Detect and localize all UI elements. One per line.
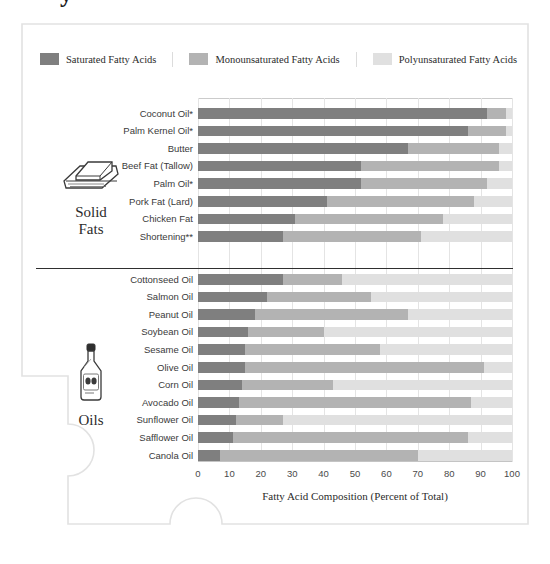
group-separator-line (36, 268, 513, 269)
bar-segment-polyunsaturated (506, 126, 512, 137)
bar-segment-saturated (198, 344, 245, 355)
bar-row (198, 214, 512, 225)
legend-label-saturated: Saturated Fatty Acids (66, 54, 156, 65)
bar-segment-polyunsaturated (499, 143, 512, 154)
category-label: Safflower Oil (139, 432, 193, 443)
bar-row (198, 397, 512, 408)
bar-segment-saturated (198, 126, 468, 137)
bar-segment-monounsaturated (233, 432, 469, 443)
bar-row (198, 178, 512, 189)
bar-row (198, 415, 512, 426)
category-label: Pork Fat (Lard) (129, 196, 193, 207)
category-label: Peanut Oil (149, 309, 193, 320)
category-label: Canola Oil (149, 450, 193, 461)
bar-segment-saturated (198, 380, 242, 391)
bar-segment-saturated (198, 309, 255, 320)
plot-area (198, 98, 512, 462)
chart-card: Saturated Fatty Acids Monounsaturated Fa… (22, 24, 528, 524)
bar-segment-saturated (198, 415, 236, 426)
x-tick-label: 90 (475, 468, 486, 479)
page-title-text: y (60, 0, 73, 8)
x-tick-label: 70 (413, 468, 424, 479)
x-axis-title: Fatty Acid Composition (Percent of Total… (198, 490, 512, 502)
bar-segment-saturated (198, 214, 295, 225)
category-label: Beef Fat (Tallow) (122, 160, 193, 171)
bar-segment-polyunsaturated (418, 450, 512, 461)
bar-row (198, 344, 512, 355)
bar-segment-saturated (198, 196, 327, 207)
cropped-page-title: y (0, 0, 550, 16)
bar-segment-monounsaturated (239, 397, 471, 408)
bar-row (198, 292, 512, 303)
bar-segment-monounsaturated (361, 178, 487, 189)
x-tick-label: 10 (224, 468, 235, 479)
x-tick-label: 40 (318, 468, 329, 479)
bar-segment-monounsaturated (242, 380, 333, 391)
bar-segment-polyunsaturated (380, 344, 512, 355)
bar-segment-saturated (198, 274, 283, 285)
bar-row (198, 196, 512, 207)
chart-legend: Saturated Fatty Acids Monounsaturated Fa… (40, 50, 512, 68)
category-label: Corn Oil (158, 379, 193, 390)
bar-segment-polyunsaturated (421, 231, 512, 242)
bar-segment-monounsaturated (248, 327, 323, 338)
legend-label-polyunsaturated: Polyunsaturated Fatty Acids (399, 54, 517, 65)
category-label: Salmon Oil (147, 291, 193, 302)
bar-row (198, 108, 512, 119)
gridline (512, 98, 513, 462)
bar-segment-monounsaturated (236, 415, 283, 426)
bar-segment-saturated (198, 161, 361, 172)
legend-item-polyunsaturated: Polyunsaturated Fatty Acids (373, 53, 517, 65)
bar-row (198, 327, 512, 338)
bar-row (198, 362, 512, 373)
legend-swatch-polyunsaturated-icon (373, 53, 392, 65)
bar-segment-monounsaturated (283, 231, 421, 242)
bar-segment-polyunsaturated (333, 380, 512, 391)
bar-segment-saturated (198, 231, 283, 242)
category-label-column: Coconut Oil*Palm Kernel Oil*ButterBeef F… (22, 98, 193, 462)
bar-segment-saturated (198, 178, 361, 189)
bar-segment-monounsaturated (327, 196, 475, 207)
category-label: Sunflower Oil (137, 414, 194, 425)
bar-row (198, 450, 512, 461)
legend-label-monounsaturated: Monounsaturated Fatty Acids (215, 54, 339, 65)
bar-segment-monounsaturated (245, 362, 484, 373)
x-tick-label: 50 (350, 468, 361, 479)
bar-segment-polyunsaturated (342, 274, 512, 285)
x-tick-label: 30 (287, 468, 298, 479)
bar-segment-monounsaturated (255, 309, 409, 320)
legend-item-saturated: Saturated Fatty Acids (40, 53, 156, 65)
bar-segment-polyunsaturated (487, 178, 512, 189)
bar-segment-polyunsaturated (484, 362, 512, 373)
bar-segment-saturated (198, 327, 248, 338)
category-label: Avocado Oil (142, 397, 193, 408)
bar-segment-monounsaturated (283, 274, 343, 285)
bar-segment-saturated (198, 108, 487, 119)
bar-segment-polyunsaturated (324, 327, 512, 338)
bar-segment-polyunsaturated (499, 161, 512, 172)
bar-row (198, 231, 512, 242)
bar-segment-saturated (198, 397, 239, 408)
bar-segment-polyunsaturated (506, 108, 512, 119)
bar-segment-monounsaturated (408, 143, 499, 154)
legend-swatch-saturated-icon (40, 53, 59, 65)
category-label: Shortening** (140, 231, 193, 242)
legend-swatch-monounsaturated-icon (189, 53, 208, 65)
bar-segment-polyunsaturated (408, 309, 512, 320)
x-tick-label: 0 (195, 468, 200, 479)
bar-segment-polyunsaturated (474, 196, 512, 207)
x-tick-label: 20 (256, 468, 267, 479)
bar-row (198, 309, 512, 320)
category-label: Palm Oil* (153, 178, 193, 189)
category-label: Olive Oil (157, 362, 193, 373)
bar-segment-monounsaturated (468, 126, 506, 137)
bar-segment-monounsaturated (295, 214, 443, 225)
category-label: Butter (168, 143, 193, 154)
bar-row (198, 380, 512, 391)
category-label: Cottonseed Oil (130, 274, 193, 285)
x-tick-label: 60 (381, 468, 392, 479)
bar-segment-monounsaturated (487, 108, 506, 119)
bar-segment-polyunsaturated (371, 292, 512, 303)
x-tick-label: 80 (444, 468, 455, 479)
bar-segment-monounsaturated (267, 292, 371, 303)
